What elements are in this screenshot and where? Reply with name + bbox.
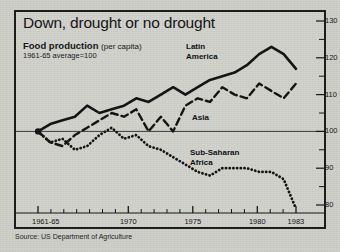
x-tick-label: 1961-65	[32, 217, 60, 226]
x-tick-label: 1983	[288, 217, 305, 226]
series-label-latin-america: LatinAmerica	[186, 42, 218, 61]
series-label-sub-saharan-africa: Sub-SaharanAfrica	[190, 148, 239, 167]
chart-plot	[0, 0, 340, 252]
series-line-sub-saharan-africa	[38, 128, 296, 209]
x-tick-label: 1980	[249, 217, 266, 226]
y-tick-label: 90	[325, 163, 333, 172]
y-tick-label: 80	[325, 200, 333, 209]
x-tick-label: 1970	[120, 217, 137, 226]
x-tick-label: 1975	[184, 217, 201, 226]
y-tick-label: 100	[325, 126, 338, 135]
y-tick-label: 120	[325, 53, 338, 62]
y-tick-label: 130	[325, 16, 338, 25]
y-tick-label: 110	[325, 90, 337, 99]
series-label-asia: Asia	[192, 113, 209, 123]
chart-page: Down, drought or no drought Food product…	[0, 0, 340, 252]
series-line-latin-america	[38, 47, 296, 132]
